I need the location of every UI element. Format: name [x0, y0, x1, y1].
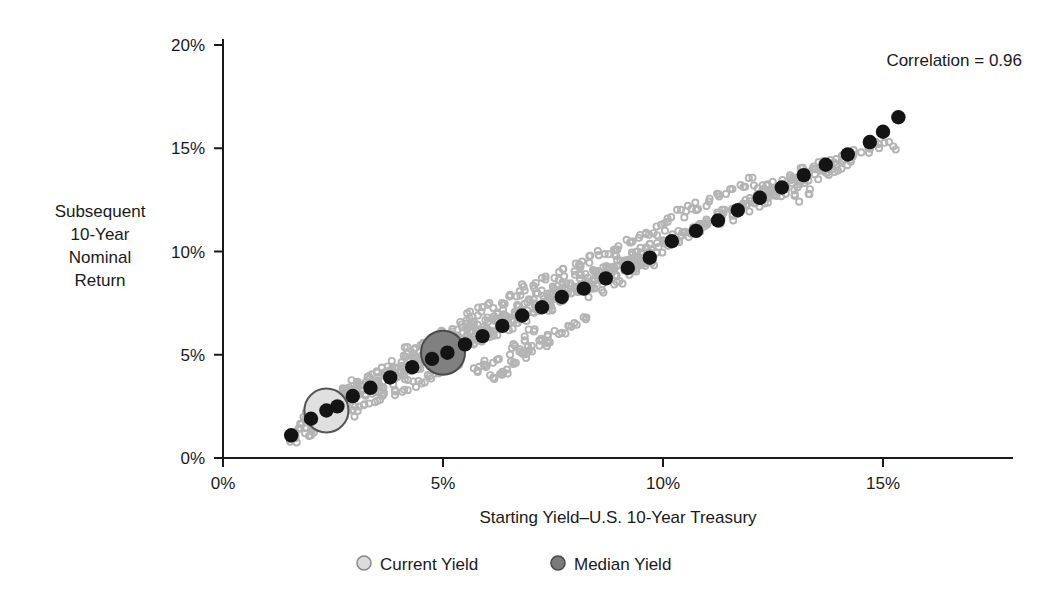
- scatter-point: [595, 248, 601, 254]
- median-point: [711, 213, 725, 227]
- scatter-point: [858, 149, 864, 155]
- scatter-chart: 0%5%10%15%20% 0%5%10%15% Starting Yield–…: [0, 0, 1047, 599]
- median-point: [515, 308, 529, 322]
- scatter-point: [688, 206, 694, 212]
- median-point: [891, 110, 905, 124]
- scatter-point: [556, 269, 562, 275]
- x-axis-title: Starting Yield–U.S. 10-Year Treasury: [479, 508, 757, 527]
- scatter-point: [662, 228, 668, 234]
- scatter-point: [351, 413, 357, 419]
- correlation-annotation: Correlation = 0.96: [886, 51, 1022, 70]
- median-point: [753, 191, 767, 205]
- x-axis-tick-labels: 0%5%10%15%: [211, 474, 900, 493]
- scatter-point: [764, 181, 770, 187]
- median-point: [599, 271, 613, 285]
- legend: Current Yield Median Yield: [357, 555, 671, 574]
- median-point: [284, 428, 298, 442]
- scatter-point: [411, 346, 417, 352]
- y-tick-label-15: 15%: [171, 139, 205, 158]
- scatter-point: [746, 208, 752, 214]
- median-point: [665, 234, 679, 248]
- median-point: [577, 281, 591, 295]
- median-point: [363, 381, 377, 395]
- median-point: [797, 168, 811, 182]
- median-point: [621, 261, 635, 275]
- scatter-point: [806, 191, 812, 197]
- median-point: [775, 180, 789, 194]
- median-point: [458, 337, 472, 351]
- chart-page: 0%5%10%15%20% 0%5%10%15% Starting Yield–…: [0, 0, 1047, 599]
- scatter-point: [650, 230, 656, 236]
- scatter-point: [507, 292, 513, 298]
- median-point: [555, 290, 569, 304]
- legend-label-median-yield: Median Yield: [574, 555, 671, 574]
- scatter-point: [791, 193, 797, 199]
- scatter-point: [796, 199, 802, 205]
- scatter-point: [475, 305, 481, 311]
- y-tick-label-10: 10%: [171, 243, 205, 262]
- y-axis-title-line-3: Nominal: [69, 248, 131, 267]
- scatter-point: [389, 358, 395, 364]
- scatter-point: [496, 356, 502, 362]
- median-point: [689, 224, 703, 238]
- x-tick-label-5: 5%: [431, 474, 456, 493]
- median-point: [440, 345, 454, 359]
- median-point: [841, 147, 855, 161]
- median-point: [876, 125, 890, 139]
- median-point: [495, 319, 509, 333]
- scatter-point: [587, 253, 593, 259]
- scatter-point: [692, 199, 698, 205]
- scatter-point: [681, 214, 687, 220]
- median-point: [643, 250, 657, 264]
- y-axis-title: Subsequent 10-Year Nominal Return: [55, 202, 146, 290]
- y-tick-label-0: 0%: [180, 449, 205, 468]
- plot-area: [284, 110, 906, 446]
- median-point: [304, 412, 318, 426]
- scatter-point: [556, 277, 562, 283]
- x-tick-label-0: 0%: [211, 474, 236, 493]
- median-point: [383, 370, 397, 384]
- scatter-point: [482, 363, 488, 369]
- scatter-point: [647, 241, 653, 247]
- median-point: [475, 329, 489, 343]
- legend-label-current-yield: Current Yield: [380, 555, 478, 574]
- scatter-point: [507, 352, 513, 358]
- scatter-point: [812, 171, 818, 177]
- y-tick-label-20: 20%: [171, 36, 205, 55]
- scatter-point: [586, 260, 592, 266]
- y-axis-title-line-4: Return: [74, 271, 125, 290]
- median-point: [863, 135, 877, 149]
- y-axis-ticks: [214, 45, 223, 458]
- y-axis-title-line-2: 10-Year: [71, 225, 130, 244]
- scatter-point: [490, 305, 496, 311]
- scatter-point: [536, 343, 542, 349]
- x-tick-label-15: 15%: [866, 474, 900, 493]
- median-point: [819, 158, 833, 172]
- scatter-point: [366, 400, 372, 406]
- median-point: [535, 300, 549, 314]
- median-point: [405, 360, 419, 374]
- x-axis-ticks: [223, 458, 883, 467]
- y-axis-tick-labels: 0%5%10%15%20%: [171, 36, 205, 468]
- legend-marker-median-yield-icon: [551, 556, 565, 570]
- median-point: [330, 399, 344, 413]
- legend-marker-current-yield-icon: [357, 556, 371, 570]
- scatter-point: [380, 392, 386, 398]
- median-point: [346, 389, 360, 403]
- median-point: [425, 352, 439, 366]
- median-point: [731, 203, 745, 217]
- scatter-point: [306, 433, 312, 439]
- x-tick-label-10: 10%: [646, 474, 680, 493]
- scatter-point: [415, 378, 421, 384]
- y-tick-label-5: 5%: [180, 346, 205, 365]
- scatter-point-group: [287, 139, 899, 446]
- scatter-point: [392, 387, 398, 393]
- y-axis-title-line-1: Subsequent: [55, 202, 146, 221]
- scatter-point: [350, 407, 356, 413]
